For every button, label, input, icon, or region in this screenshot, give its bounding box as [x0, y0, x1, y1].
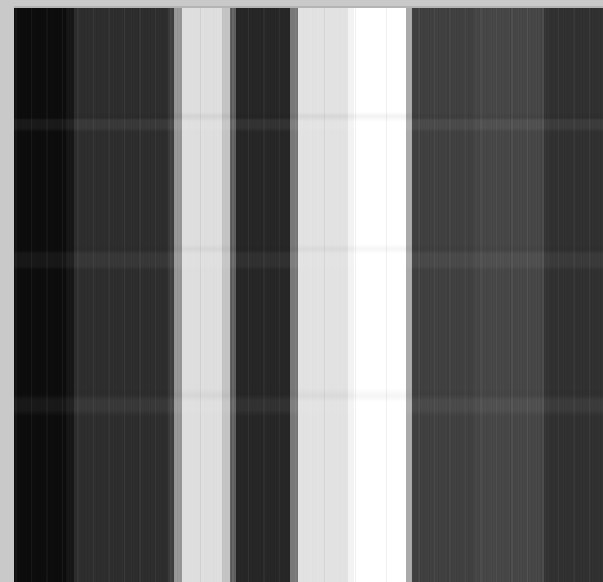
- vertical-band-gradient: [14, 8, 603, 582]
- raster-plot-area: [14, 8, 603, 582]
- left-margin-strip: [0, 0, 14, 582]
- figure-canvas: [0, 0, 603, 582]
- top-hairline: [14, 6, 603, 8]
